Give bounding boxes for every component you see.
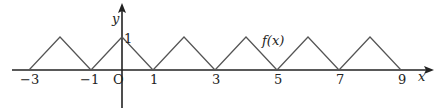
origin-label: O [113,72,124,87]
peak-value-label: 1 [124,31,132,46]
function-curve [29,37,401,70]
triangle-wave-diagram: y x 1 O f(x) −3 −1 1 3 5 7 9 [0,0,436,112]
x-tick-label: 1 [150,72,158,87]
x-tick-label: 5 [274,72,282,87]
x-tick-label: 3 [212,72,220,87]
x-tick-label: 7 [336,72,344,87]
x-tick-label: 9 [398,72,406,87]
x-axis-label: x [418,69,426,84]
x-tick-label: −3 [20,72,39,87]
function-label: f(x) [261,33,284,48]
x-tick-label: −1 [80,72,99,87]
y-axis-label: y [111,11,120,26]
